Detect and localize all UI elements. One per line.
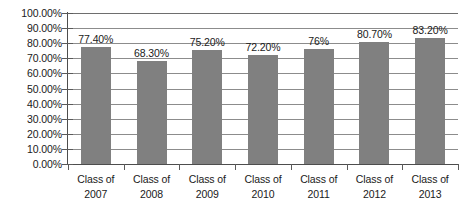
category-axis-tick bbox=[179, 164, 180, 170]
bar-value-label: 72.20% bbox=[245, 41, 280, 53]
category-axis-label-line: 2007 bbox=[68, 187, 124, 202]
bar-slot: 75.20% bbox=[179, 13, 235, 164]
y-axis-tick-mark bbox=[62, 89, 73, 90]
category-axis-label-line: 2008 bbox=[124, 187, 180, 202]
category-axis-label: Class of2009 bbox=[179, 172, 235, 202]
bar-value-label: 76% bbox=[308, 35, 329, 47]
y-axis-tick-mark bbox=[62, 104, 73, 105]
category-axis-tick bbox=[235, 164, 236, 170]
y-axis-tick-mark bbox=[62, 28, 73, 29]
category-axis-label-line: Class of bbox=[402, 172, 458, 187]
category-axis-label-line: Class of bbox=[235, 172, 291, 187]
y-axis-tick-label: 0.00% bbox=[0, 158, 62, 170]
category-axis-tick bbox=[124, 164, 125, 170]
y-axis-tick-label: 70.00% bbox=[0, 52, 62, 64]
bar[interactable] bbox=[415, 38, 445, 164]
category-axis-tick bbox=[402, 164, 403, 170]
y-axis-tick-label: 20.00% bbox=[0, 128, 62, 140]
category-axis-label-line: Class of bbox=[68, 172, 124, 187]
bar-value-label: 80.70% bbox=[357, 28, 392, 40]
y-axis-tick-mark bbox=[62, 119, 73, 120]
y-axis-tick-label: 50.00% bbox=[0, 83, 62, 95]
bar-slot: 76% bbox=[291, 13, 347, 164]
category-axis-label-line: 2011 bbox=[291, 187, 347, 202]
category-axis-tick bbox=[68, 164, 69, 170]
category-axis-label: Class of2011 bbox=[291, 172, 347, 202]
y-axis-tick-mark bbox=[62, 13, 73, 14]
y-axis-tick-label: 60.00% bbox=[0, 67, 62, 79]
category-axis-label: Class of2007 bbox=[68, 172, 124, 202]
y-axis-tick-label: 90.00% bbox=[0, 22, 62, 34]
y-axis-tick-label: 80.00% bbox=[0, 37, 62, 49]
y-axis-tick-mark bbox=[62, 58, 73, 59]
y-axis-tick-label: 30.00% bbox=[0, 113, 62, 125]
bar[interactable] bbox=[304, 49, 334, 164]
bar-value-label: 75.20% bbox=[190, 36, 225, 48]
category-axis-label-line: 2009 bbox=[179, 187, 235, 202]
category-axis-label: Class of2012 bbox=[347, 172, 403, 202]
bar-value-label: 83.20% bbox=[413, 24, 448, 36]
category-axis-label-line: 2010 bbox=[235, 187, 291, 202]
bars-layer: 77.40%68.30%75.20%72.20%76%80.70%83.20% bbox=[68, 13, 458, 164]
y-axis-tick-label: 40.00% bbox=[0, 98, 62, 110]
bar[interactable] bbox=[359, 42, 389, 164]
category-axis-tick bbox=[458, 164, 459, 170]
bar[interactable] bbox=[81, 47, 111, 164]
category-axis-label: Class of2013 bbox=[402, 172, 458, 202]
category-axis-label-line: Class of bbox=[124, 172, 180, 187]
category-axis-label-line: Class of bbox=[179, 172, 235, 187]
y-axis-tick-mark bbox=[62, 73, 73, 74]
y-axis-tick-label: 100.00% bbox=[0, 7, 62, 19]
category-axis-label: Class of2010 bbox=[235, 172, 291, 202]
category-axis-label-line: Class of bbox=[347, 172, 403, 187]
bar[interactable] bbox=[137, 61, 167, 164]
category-axis-label-line: 2012 bbox=[347, 187, 403, 202]
y-axis-tick-label: 10.00% bbox=[0, 143, 62, 155]
bar-value-label: 68.30% bbox=[134, 47, 169, 59]
bar-slot: 80.70% bbox=[347, 13, 403, 164]
bar-value-label: 77.40% bbox=[78, 33, 113, 45]
y-axis-tick-mark bbox=[62, 149, 73, 150]
category-axis-line bbox=[62, 164, 458, 165]
bar-slot: 72.20% bbox=[235, 13, 291, 164]
category-label-group: Class of2007Class of2008Class of2009Clas… bbox=[68, 172, 458, 208]
y-axis-tick-mark bbox=[62, 43, 73, 44]
bar-chart: 0.00%10.00%20.00%30.00%40.00%50.00%60.00… bbox=[0, 0, 474, 211]
bar-slot: 77.40% bbox=[68, 13, 124, 164]
y-axis-label-group: 0.00%10.00%20.00%30.00%40.00%50.00%60.00… bbox=[0, 7, 62, 171]
bar[interactable] bbox=[192, 50, 222, 164]
bar-slot: 83.20% bbox=[402, 13, 458, 164]
bar-slot: 68.30% bbox=[124, 13, 180, 164]
y-axis-tick-mark bbox=[62, 134, 73, 135]
category-axis-label: Class of2008 bbox=[124, 172, 180, 202]
bar[interactable] bbox=[248, 55, 278, 164]
category-axis-label-line: Class of bbox=[291, 172, 347, 187]
category-axis-tick bbox=[291, 164, 292, 170]
category-axis-tick bbox=[347, 164, 348, 170]
category-axis-label-line: 2013 bbox=[402, 187, 458, 202]
